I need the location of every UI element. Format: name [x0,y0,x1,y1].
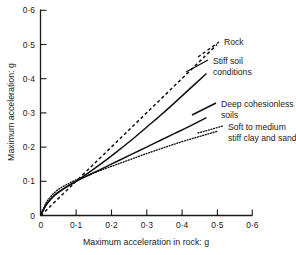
x-axis-title: Maximum acceleration in rock: g [83,237,209,247]
y-tick-label: 0·5 [23,40,36,50]
x-tick-label: 0 [38,220,43,230]
y-tick-labels: 0 0·1 0·2 0·3 0·4 0·5 0·6 [23,5,36,220]
y-axis-ticks [41,10,47,215]
y-axis [41,10,47,216]
x-tick-label: 0·4 [176,220,189,230]
annotation-soft-clay-line1: Soft to medium [228,122,286,132]
annotation-labels: Rock Stiff soil conditions Deep cohesion… [213,37,296,143]
curve-stiff-soil-conditions [41,74,207,216]
annotation-stiff-soil-line1: Stiff soil [213,56,243,66]
y-tick-label: 0·4 [23,74,36,84]
y-tick-label: 0·2 [23,142,36,152]
curve-deep-cohesionless-soils [41,118,207,216]
annotation-deep-cohesionless-line2: soils [221,110,238,120]
curve-soft-to-medium-stiff-clay-and-sand [41,131,217,215]
annotation-deep-cohesionless-line1: Deep cohesionless [221,99,294,109]
x-tick-label: 0·6 [246,220,259,230]
x-tick-label: 0·2 [105,220,118,230]
annotation-rock: Rock [224,37,244,47]
x-tick-label: 0·3 [141,220,154,230]
y-tick-label: 0·3 [23,108,36,118]
x-tick-labels: 0 0·1 0·2 0·3 0·4 0·5 0·6 [38,220,258,230]
x-tick-label: 0·5 [211,220,224,230]
x-tick-label: 0·1 [70,220,83,230]
annotation-stiff-soil-line2: conditions [213,67,252,77]
y-tick-label: 0·1 [23,176,36,186]
y-tick-label: 0·6 [23,5,36,15]
annotation-soft-clay-line2: stiff clay and sand [228,133,296,143]
x-axis [41,210,253,216]
y-axis-title: Maximum acceleration: g [6,63,16,161]
y-tick-label: 0 [30,211,35,221]
x-axis-ticks [41,210,253,216]
chart-figure: 0 0·1 0·2 0·3 0·4 0·5 0·6 0 0·1 0·2 0·3 … [0,0,296,255]
